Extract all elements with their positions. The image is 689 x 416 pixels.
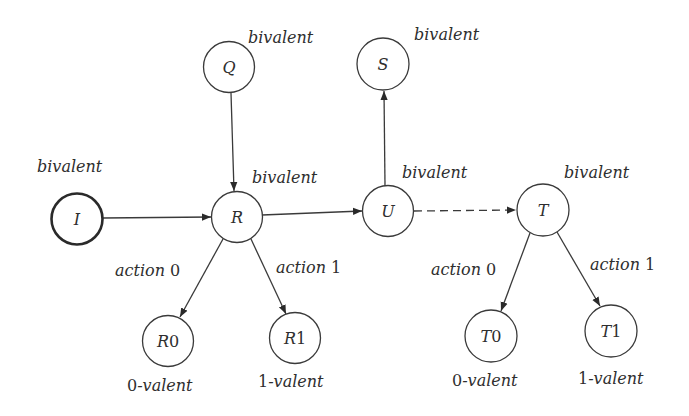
state-label-R1: 1-valent [258,372,324,391]
node-R0-label: R0 [156,332,179,351]
edge-label-R-R1: action 1 [276,258,341,277]
edge-R-R0 [180,239,223,317]
node-S-label: S [378,55,389,74]
node-I: I [52,194,103,245]
valency-diagram: I Q R S U T R0 R1 T0 T1 bivalent bivalen… [0,0,689,416]
node-R0: R0 [143,316,194,367]
edge-T-T0 [501,233,530,311]
edge-label-R-R0: action 0 [115,261,180,280]
edge-I-R [103,217,211,218]
node-U: U [363,186,414,237]
state-label-R: bivalent [252,168,318,187]
edge-label-T-T0: action 0 [431,260,496,279]
edge-R-U [262,211,362,215]
state-label-Q: bivalent [248,28,314,47]
node-T1-label: T1 [601,322,622,341]
edge-U-T-dashed [414,210,516,211]
node-R1: R1 [270,313,321,364]
node-S: S [357,38,409,90]
state-label-I: bivalent [37,157,103,176]
node-T0-label: T0 [481,327,502,346]
state-label-U: bivalent [402,163,468,182]
node-R-label: R [230,208,243,227]
node-T0: T0 [465,310,517,362]
node-Q: Q [204,42,255,93]
state-label-T0: 0-valent [452,371,518,390]
edge-Q-R [231,93,234,191]
edge-U-S [384,91,385,186]
node-Q-label: Q [222,58,235,77]
edge-label-T-T1: action 1 [590,255,655,274]
node-T-label: T [538,201,550,220]
state-label-S: bivalent [414,25,480,44]
node-T1: T1 [585,305,637,357]
state-label-T1: 1-valent [578,369,644,388]
state-label-R0: 0-valent [127,376,193,395]
node-R: R [212,192,263,243]
state-label-T: bivalent [564,163,630,182]
node-U-label: U [381,202,395,221]
node-T: T [517,184,569,236]
node-I-label: I [73,210,81,229]
node-R1-label: R1 [283,329,306,348]
